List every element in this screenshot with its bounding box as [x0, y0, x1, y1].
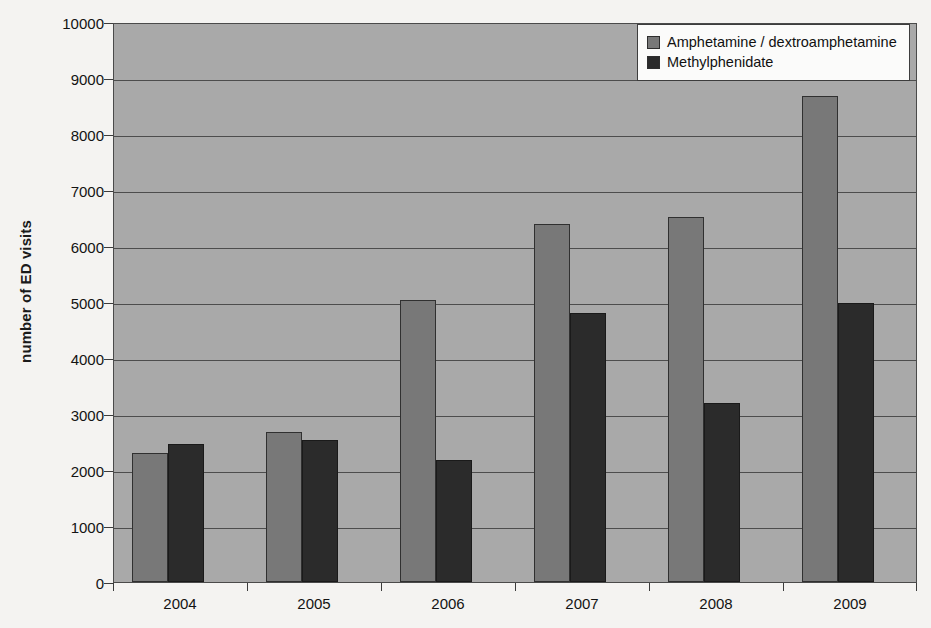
- y-tick-mark: [104, 527, 113, 528]
- gridline: [114, 472, 916, 473]
- y-tick-mark: [104, 359, 113, 360]
- bar-2008-series-0: [668, 217, 704, 582]
- y-tick-mark: [104, 471, 113, 472]
- x-tick-label-2006: 2006: [431, 595, 464, 612]
- y-tick-label: 4000: [27, 351, 113, 368]
- legend-label: Methylphenidate: [667, 54, 773, 70]
- bar-2009-series-0: [802, 96, 838, 582]
- y-tick-mark: [104, 135, 113, 136]
- x-tick-mark: [649, 583, 650, 591]
- bar-2007-series-0: [534, 224, 570, 582]
- y-tick-mark: [104, 79, 113, 80]
- legend-item-1: Methylphenidate: [647, 52, 897, 72]
- bar-2006-series-1: [436, 460, 472, 582]
- y-tick-label: 9000: [27, 71, 113, 88]
- x-tick-mark: [247, 583, 248, 591]
- y-tick-mark: [104, 583, 113, 584]
- y-tick-mark: [104, 303, 113, 304]
- bar-2004-series-1: [168, 444, 204, 582]
- bar-2008-series-1: [704, 403, 740, 582]
- gridline: [114, 192, 916, 193]
- x-tick-label-2005: 2005: [297, 595, 330, 612]
- legend-swatch-icon: [647, 36, 660, 49]
- x-tick-label-2007: 2007: [565, 595, 598, 612]
- y-axis-ticks: 0100020003000400050006000700080009000100…: [0, 0, 113, 628]
- x-tick-mark: [515, 583, 516, 591]
- gridline: [114, 304, 916, 305]
- y-tick-label: 6000: [27, 239, 113, 256]
- plot-area: [113, 23, 917, 583]
- bar-2007-series-1: [570, 313, 606, 582]
- x-tick-mark: [113, 583, 114, 591]
- y-tick-label: 8000: [27, 127, 113, 144]
- y-tick-label: 2000: [27, 463, 113, 480]
- chart-legend: Amphetamine / dextroamphetamineMethylphe…: [637, 24, 910, 81]
- gridline: [114, 360, 916, 361]
- bar-2009-series-1: [838, 303, 874, 582]
- legend-label: Amphetamine / dextroamphetamine: [667, 34, 897, 50]
- legend-swatch-icon: [647, 56, 660, 69]
- x-tick-mark: [916, 583, 917, 591]
- bar-2005-series-0: [266, 432, 302, 582]
- x-tick-label-2004: 2004: [163, 595, 196, 612]
- y-tick-label: 1000: [27, 519, 113, 536]
- gridline: [114, 416, 916, 417]
- x-axis: 200420052006200720082009: [113, 583, 917, 628]
- x-tick-mark: [783, 583, 784, 591]
- gridline: [114, 248, 916, 249]
- bar-2005-series-1: [302, 440, 338, 582]
- y-tick-mark: [104, 191, 113, 192]
- y-tick-label: 7000: [27, 183, 113, 200]
- y-tick-mark: [104, 23, 113, 24]
- y-tick-label: 3000: [27, 407, 113, 424]
- y-tick-mark: [104, 415, 113, 416]
- y-tick-mark: [104, 247, 113, 248]
- legend-item-0: Amphetamine / dextroamphetamine: [647, 32, 897, 52]
- gridline: [114, 136, 916, 137]
- y-tick-label: 10000: [27, 15, 113, 32]
- x-tick-label-2008: 2008: [699, 595, 732, 612]
- gridline: [114, 528, 916, 529]
- x-tick-mark: [381, 583, 382, 591]
- bar-2006-series-0: [400, 300, 436, 582]
- bar-2004-series-0: [132, 453, 168, 582]
- x-tick-label-2009: 2009: [833, 595, 866, 612]
- bar-chart: number of ED visits 01000200030004000500…: [0, 0, 931, 628]
- y-tick-label: 5000: [27, 295, 113, 312]
- y-tick-label: 0: [27, 575, 113, 592]
